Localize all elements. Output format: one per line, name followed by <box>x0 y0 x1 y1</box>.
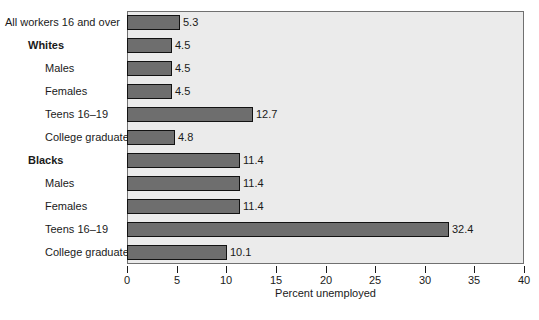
bar-value-label: 5.3 <box>183 11 198 34</box>
bar-value-label: 11.4 <box>243 172 264 195</box>
category-label: All workers 16 and over <box>5 11 123 34</box>
chart-row: Teens 16–1932.4 <box>0 218 539 241</box>
bar <box>127 176 240 191</box>
chart-row: Whites4.5 <box>0 34 539 57</box>
bar-value-label: 11.4 <box>243 195 264 218</box>
x-tick-label: 15 <box>270 274 282 287</box>
category-label: Males <box>45 172 123 195</box>
bar <box>127 107 253 122</box>
bar <box>127 222 449 237</box>
chart-row: All workers 16 and over5.3 <box>0 11 539 34</box>
bar <box>127 38 172 53</box>
bar <box>127 15 180 30</box>
x-tick-mark <box>276 266 277 273</box>
chart-row: Females4.5 <box>0 80 539 103</box>
bar-value-label: 4.5 <box>175 80 190 103</box>
x-tick-label: 0 <box>124 274 130 287</box>
category-label: Blacks <box>28 149 123 172</box>
category-label: Females <box>45 80 123 103</box>
x-tick-label: 10 <box>220 274 232 287</box>
x-tick-mark <box>326 266 327 273</box>
bar-value-label: 4.5 <box>175 57 190 80</box>
bar <box>127 84 172 99</box>
bar <box>127 199 240 214</box>
x-tick-label: 30 <box>419 274 431 287</box>
category-label: Females <box>45 195 123 218</box>
x-tick-mark <box>425 266 426 273</box>
bar-value-label: 10.1 <box>230 241 251 264</box>
bar <box>127 130 175 145</box>
category-label: College graduates <box>45 126 123 149</box>
x-axis-title-label: Percent unemployed <box>275 287 376 299</box>
category-label: College graduates <box>45 241 123 264</box>
chart-row: Males4.5 <box>0 57 539 80</box>
category-label: Whites <box>28 34 123 57</box>
x-tick-mark <box>375 266 376 273</box>
x-tick-label: 40 <box>518 274 530 287</box>
bar <box>127 245 227 260</box>
bar-value-label: 32.4 <box>452 218 473 241</box>
x-tick-mark <box>524 266 525 273</box>
bar-value-label: 12.7 <box>256 103 277 126</box>
chart-row: Females11.4 <box>0 195 539 218</box>
x-tick-label: 5 <box>174 274 180 287</box>
x-tick-mark <box>226 266 227 273</box>
x-tick-mark <box>127 266 128 273</box>
chart-row: College graduates4.8 <box>0 126 539 149</box>
bar-value-label: 4.8 <box>178 126 193 149</box>
bar-chart: All workers 16 and over5.3Whites4.5Males… <box>0 0 539 320</box>
chart-row: College graduates10.1 <box>0 241 539 264</box>
x-axis-title: Percent unemployed <box>127 287 524 299</box>
x-tick-mark <box>177 266 178 273</box>
bar-value-label: 4.5 <box>175 34 190 57</box>
x-tick-label: 20 <box>320 274 332 287</box>
chart-row: Males11.4 <box>0 172 539 195</box>
x-tick-label: 25 <box>369 274 381 287</box>
bar <box>127 61 172 76</box>
category-label: Males <box>45 57 123 80</box>
category-label: Teens 16–19 <box>45 218 123 241</box>
bar-value-label: 11.4 <box>243 149 264 172</box>
chart-row: Blacks11.4 <box>0 149 539 172</box>
chart-row: Teens 16–1912.7 <box>0 103 539 126</box>
x-tick-mark <box>474 266 475 273</box>
x-tick-label: 35 <box>468 274 480 287</box>
category-label: Teens 16–19 <box>45 103 123 126</box>
bar <box>127 153 240 168</box>
